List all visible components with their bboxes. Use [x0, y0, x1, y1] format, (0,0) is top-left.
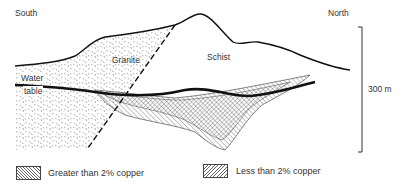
north-label: North — [328, 8, 349, 18]
legend-swatch-low-grade — [203, 164, 228, 178]
scale-bar-label: 300 m — [368, 84, 392, 94]
scale-bar — [358, 27, 362, 152]
table-label: table — [23, 86, 43, 96]
granite-label: Granite — [112, 55, 140, 65]
legend-label-high-grade: Greater than 2% copper — [48, 168, 144, 178]
south-label: South — [15, 8, 37, 18]
water-label: Water — [20, 73, 44, 83]
legend-swatch-high-grade — [16, 166, 41, 180]
legend-label-low-grade: Less than 2% copper — [236, 166, 321, 176]
schist-label: Schist — [207, 52, 230, 62]
cross-section-diagram — [0, 0, 409, 191]
